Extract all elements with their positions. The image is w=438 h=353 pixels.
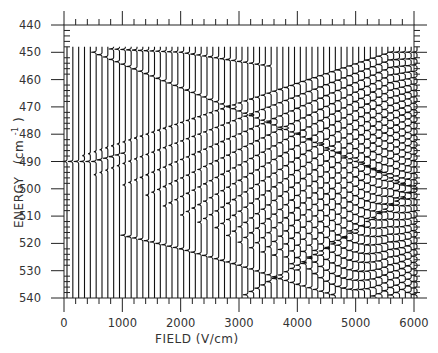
spectrum-trace — [115, 47, 120, 298]
spectrum-trace — [179, 47, 184, 298]
spectrum-trace — [120, 47, 125, 298]
spectrum-trace — [167, 47, 172, 298]
spectrum-trace — [173, 47, 178, 298]
spectrum-trace — [185, 47, 190, 298]
x-tick-label: 0 — [60, 316, 67, 330]
y-axis-title-exponent: -1 — [11, 126, 20, 135]
y-tick-label: 470 — [19, 100, 41, 114]
spectrum-trace — [289, 47, 294, 298]
spectrum-trace — [243, 47, 248, 298]
x-axis-title: FIELD (V/cm) — [155, 332, 239, 346]
spectrum-trace — [335, 47, 341, 298]
spectrum-trace — [74, 47, 79, 298]
spectrum-trace — [359, 47, 365, 298]
spectrum-trace — [330, 47, 336, 298]
spectrum-trace — [161, 47, 166, 298]
x-tick-label: 6000 — [399, 316, 428, 330]
stark-spectra-chart: 440450460470480490500510520530540 010002… — [0, 0, 438, 353]
spectrum-trace — [150, 47, 155, 298]
x-tick-label: 5000 — [341, 316, 370, 330]
spectrum-trace — [249, 47, 254, 298]
spectrum-trace — [97, 47, 102, 298]
spectrum-trace — [85, 47, 90, 298]
spectrum-trace — [202, 47, 207, 298]
spectrum-trace — [353, 47, 359, 298]
y-axis-title-unit: (cm — [12, 140, 26, 164]
spectrum-trace — [237, 47, 242, 298]
spectrum-trace — [144, 47, 149, 298]
spectrum-trace — [278, 47, 283, 298]
spectrum-trace — [208, 47, 213, 298]
x-tick-label: 3000 — [224, 316, 253, 330]
spectrum-trace — [272, 47, 277, 298]
spectrum-trace — [394, 47, 400, 298]
spectrum-trace — [347, 47, 353, 298]
spectrum-trace — [266, 47, 271, 298]
spectrum-trace — [132, 47, 137, 298]
spectrum-trace — [341, 47, 347, 298]
spectrum-trace — [231, 47, 236, 298]
spectrum-trace — [370, 47, 376, 298]
x-tick-label: 1000 — [108, 316, 137, 330]
spectrum-trace — [220, 47, 225, 298]
spectrum-trace — [312, 47, 318, 298]
spectrum-trace — [382, 47, 388, 298]
spectrum-trace — [138, 47, 143, 298]
spectrum-trace — [80, 47, 85, 298]
spectrum-trace — [155, 47, 160, 298]
spectrum-trace — [214, 47, 219, 298]
spectrum-trace — [196, 47, 201, 298]
y-axis-title-text: ENERGY — [12, 176, 26, 228]
y-tick-label: 450 — [19, 45, 41, 59]
spectrum-trace — [405, 47, 411, 298]
spectrum-trace — [255, 47, 260, 298]
spectrum-trace — [190, 47, 195, 298]
spectrum-trace — [318, 47, 324, 298]
spectrum-trace — [364, 47, 370, 298]
spectrum-trace — [307, 47, 313, 298]
spectrum-trace — [109, 47, 114, 298]
y-tick-label: 540 — [19, 291, 41, 305]
spectrum-trace — [103, 47, 108, 298]
spectrum-trace — [126, 47, 131, 298]
spectrum-trace — [388, 47, 394, 298]
spectrum-trace — [260, 47, 265, 298]
y-tick-label: 520 — [19, 236, 41, 250]
spectrum-trace — [399, 47, 405, 298]
x-tick-label: 4000 — [283, 316, 312, 330]
spectrum-trace — [295, 47, 300, 298]
spectrum-trace — [324, 47, 330, 298]
x-tick-label: 2000 — [166, 316, 195, 330]
spectra-traces — [62, 47, 417, 298]
spectrum-trace — [91, 47, 96, 298]
y-tick-label: 440 — [19, 18, 41, 32]
spectrum-trace — [301, 47, 306, 298]
y-tick-label: 460 — [19, 73, 41, 87]
y-tick-label: 530 — [19, 264, 41, 278]
y-axis-title-unit-close: ) — [12, 117, 26, 122]
spectrum-trace — [284, 47, 289, 298]
spectrum-trace — [376, 47, 382, 298]
spectrum-trace — [225, 47, 230, 298]
